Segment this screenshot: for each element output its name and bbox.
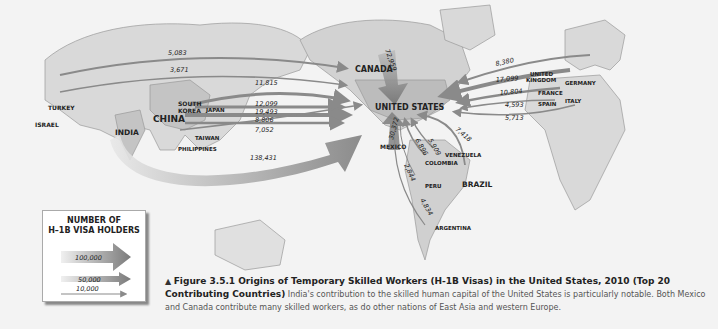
label-philippines: PHILIPPINES (178, 146, 217, 152)
label-japan: JAPAN (205, 107, 225, 114)
value-taiwan: 8,806 (255, 116, 274, 124)
value-south-korea: 11,815 (255, 79, 278, 87)
south-america (405, 140, 470, 260)
label-uk-2: KINGDOM (526, 77, 556, 83)
legend-arrows: 100,000 50,000 10,000 (43, 239, 145, 301)
label-israel: ISRAEL (35, 121, 59, 128)
label-south-korea-2: KOREA (178, 107, 201, 114)
label-venezuela: VENEZUELA (445, 152, 482, 158)
legend: NUMBER OF H–1B VISA HOLDERS 100,000 50,0… (42, 210, 146, 302)
label-spain: SPAIN (538, 101, 557, 107)
label-mexico: MEXICO (380, 143, 406, 150)
value-japan: 12,099 (255, 100, 278, 108)
europe (565, 20, 625, 70)
label-taiwan: TAIWAN (195, 135, 220, 141)
value-china: 19,493 (255, 108, 278, 116)
legend-label-10000: 10,000 (76, 285, 99, 293)
label-india: INDIA (115, 128, 139, 137)
label-argentina: ARGENTINA (435, 225, 472, 231)
label-italy: ITALY (565, 98, 582, 104)
value-uk: 17,099 (495, 74, 518, 84)
value-turkey: 5,083 (168, 49, 187, 57)
label-canada: CANADA (355, 65, 394, 74)
label-turkey: TURKEY (48, 104, 75, 111)
legend-title: NUMBER OF H–1B VISA HOLDERS (43, 216, 145, 236)
australia (215, 220, 285, 270)
legend-label-50000: 50,000 (78, 276, 101, 284)
india-flow-arrow (110, 135, 362, 186)
value-spain: 4,593 (505, 101, 524, 109)
label-united-states: UNITED STATES (375, 103, 445, 112)
legend-label-100000: 100,000 (75, 254, 102, 262)
label-south-korea-1: SOUTH (178, 100, 201, 107)
triangle-marker-icon: ▲ (165, 277, 171, 286)
label-france: FRANCE (538, 90, 563, 96)
value-philippines: 7,052 (255, 126, 274, 134)
label-peru: PERU (425, 183, 442, 189)
label-brazil: BRAZIL (462, 180, 493, 189)
label-colombia: COLOMBIA (425, 160, 458, 166)
figure-caption: ▲ Figure 3.5.1 Origins of Temporary Skil… (165, 275, 710, 314)
value-italy: 5,713 (505, 114, 524, 122)
value-brazil: 7,418 (454, 125, 473, 143)
label-china: CHINA (153, 114, 185, 124)
value-india: 138,431 (250, 154, 277, 162)
label-germany: GERMANY (565, 80, 597, 86)
value-france: 10,804 (499, 87, 522, 97)
value-israel: 3,671 (170, 66, 189, 74)
